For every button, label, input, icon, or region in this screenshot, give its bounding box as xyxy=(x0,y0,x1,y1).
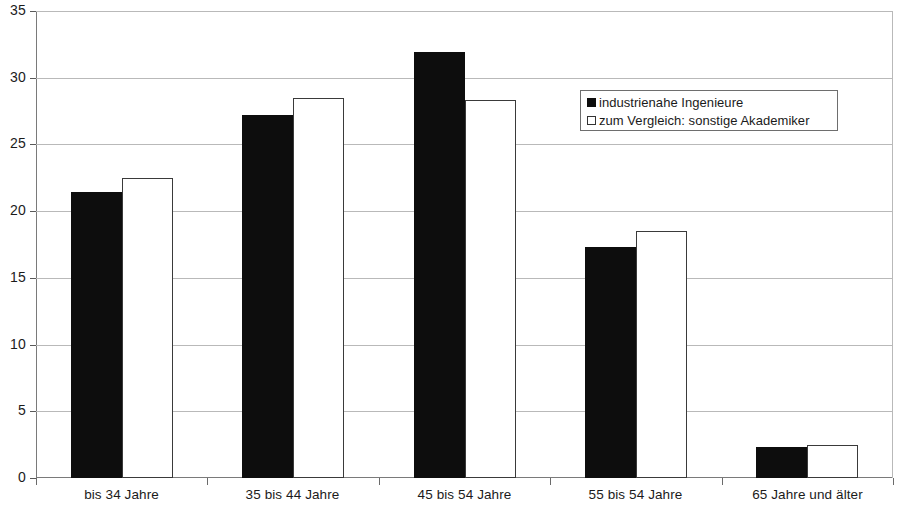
x-axis-tick-label: 55 bis 54 Jahre xyxy=(550,487,721,502)
bar-chart: 05101520253035 bis 34 Jahre35 bis 44 Jah… xyxy=(0,0,904,508)
bar-series-a xyxy=(242,115,293,478)
x-axis-tick-label: 35 bis 44 Jahre xyxy=(207,487,378,502)
x-axis-tick xyxy=(36,478,37,485)
bar-series-a xyxy=(414,52,465,478)
x-axis-tick xyxy=(550,478,551,485)
legend-item-label: zum Vergleich: sonstige Akademiker xyxy=(599,113,810,128)
bar-series-a xyxy=(71,192,122,478)
bar-series-b xyxy=(465,100,516,478)
bar-series-b xyxy=(122,178,173,478)
x-axis-tick-label: bis 34 Jahre xyxy=(36,487,207,502)
x-axis-tick-label: 65 Jahre und älter xyxy=(722,487,893,502)
legend-item-label: industrienahe Ingenieure xyxy=(599,95,743,110)
bar-series-a xyxy=(756,447,807,478)
chart-legend: industrienahe Ingenieure zum Vergleich: … xyxy=(580,90,838,131)
legend-item: industrienahe Ingenieure xyxy=(587,94,832,111)
bar-series-a xyxy=(585,247,636,478)
x-axis-tick xyxy=(207,478,208,485)
filled-black-square-icon xyxy=(587,98,596,107)
x-axis-tick-label: 45 bis 54 Jahre xyxy=(379,487,550,502)
bars xyxy=(0,0,904,508)
bar-series-b xyxy=(293,98,344,478)
x-axis-tick xyxy=(893,478,894,485)
legend-item: zum Vergleich: sonstige Akademiker xyxy=(587,112,832,129)
outlined-white-square-icon xyxy=(587,116,596,125)
bar-series-b xyxy=(807,445,858,478)
x-axis-tick xyxy=(379,478,380,485)
x-axis-tick xyxy=(722,478,723,485)
bar-series-b xyxy=(636,231,687,478)
